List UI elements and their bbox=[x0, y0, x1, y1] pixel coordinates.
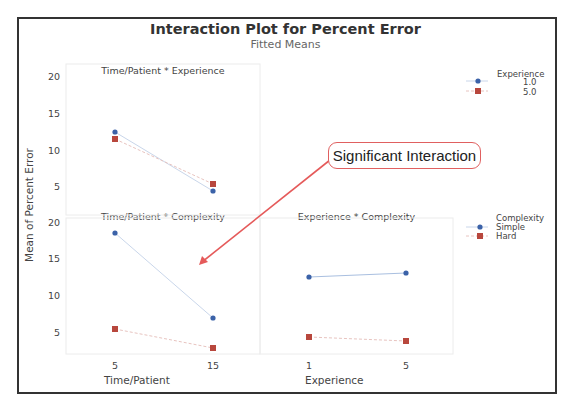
panel-frame-top-left bbox=[66, 64, 260, 215]
data-point bbox=[306, 274, 311, 279]
data-point bbox=[210, 188, 215, 193]
legend-experience-title: Experience bbox=[497, 69, 544, 79]
data-point bbox=[210, 345, 216, 351]
legend-experience-markers bbox=[466, 78, 488, 94]
series-complexity-hard-exp bbox=[306, 334, 409, 344]
legend-complexity-markers bbox=[466, 224, 488, 239]
legend-circle-icon bbox=[477, 224, 482, 229]
annotation-arrow-icon bbox=[199, 160, 330, 265]
data-point bbox=[403, 338, 409, 344]
data-point bbox=[210, 181, 216, 187]
significant-interaction-callout: Significant Interaction bbox=[328, 142, 481, 169]
data-point bbox=[403, 270, 408, 275]
data-point bbox=[210, 315, 215, 320]
legend-square-icon bbox=[477, 233, 483, 239]
data-point bbox=[112, 230, 117, 235]
panel-frame-bottom-right bbox=[260, 218, 453, 354]
series-complexity-simple-exp bbox=[306, 270, 408, 279]
legend-circle-icon bbox=[475, 78, 480, 83]
series-complexity-hard-tp bbox=[112, 326, 216, 351]
data-point bbox=[306, 334, 312, 340]
legend-experience-item: 5.0 bbox=[523, 87, 537, 97]
legend-square-icon bbox=[475, 88, 481, 94]
legend-experience-item: 1.0 bbox=[523, 77, 537, 87]
data-point bbox=[112, 129, 117, 134]
data-point bbox=[112, 326, 118, 332]
series-experience-1 bbox=[112, 129, 215, 193]
legend-complexity-item: Hard bbox=[496, 231, 516, 241]
plot-area bbox=[0, 0, 571, 404]
data-point bbox=[112, 136, 118, 142]
series-complexity-simple-tp bbox=[112, 230, 215, 320]
